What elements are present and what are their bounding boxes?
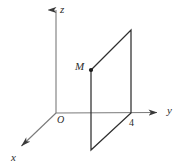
- y-axis-label: y: [167, 105, 172, 116]
- diagram-canvas: [0, 0, 179, 168]
- x-axis-line: [22, 113, 57, 146]
- x-axis-label: x: [11, 152, 16, 163]
- origin-label: O: [57, 115, 64, 125]
- y-axis-line: [56, 113, 157, 114]
- y-axis-tick-label-4: 4: [129, 118, 134, 128]
- z-axis-label: z: [60, 4, 64, 15]
- point-m-marker: [89, 68, 93, 72]
- vertical-plane-polygon: [91, 30, 131, 150]
- coordinate-diagram-figure: z y x O M 4: [0, 0, 179, 168]
- point-m-label: M: [75, 61, 84, 72]
